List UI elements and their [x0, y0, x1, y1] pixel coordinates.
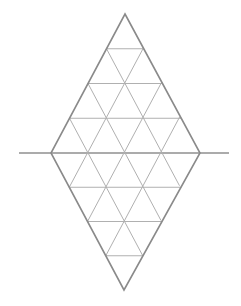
rhombus-outline: [51, 14, 200, 290]
rhombus-outline-shape: [51, 14, 200, 290]
triangle-grid-lines: [69, 48, 181, 256]
triangular-grid-rhombus: [0, 0, 241, 306]
